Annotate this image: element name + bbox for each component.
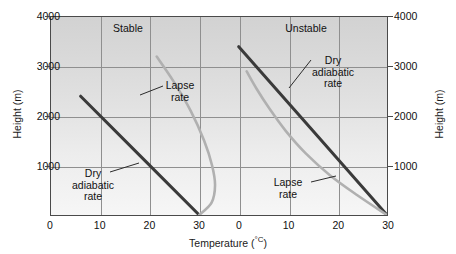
y-axis-title-right: Height (m) — [433, 84, 445, 144]
panel-title-stable: Stable — [113, 22, 143, 34]
label-stable-lapse-rate: Lapse rate — [166, 80, 195, 103]
x-tick-label-stable: 30 — [193, 220, 205, 231]
x-tick-label-stable: 20 — [144, 220, 156, 231]
curve-unstable-lapse-rate — [247, 71, 387, 215]
temperature-height-chart: 1000100020002000300030004000400001020300… — [0, 0, 456, 254]
x-axis-title: Temperature (°C) — [0, 235, 456, 249]
label-stable-lapse-line2: rate — [166, 92, 195, 104]
label-stable-dry-line1: Dry — [72, 168, 114, 180]
y-tick-mark-right — [388, 166, 393, 167]
y-tick-label-right: 1000 — [394, 161, 436, 172]
label-unstable-lapse-rate: Lapse rate — [274, 177, 303, 200]
x-tick-label-unstable: 10 — [283, 220, 295, 231]
label-unstable-lapse-line1: Lapse — [274, 177, 303, 189]
y-tick-label-right: 3000 — [394, 61, 436, 72]
label-stable-lapse-line1: Lapse — [166, 80, 195, 92]
y-tick-label-left: 4000 — [18, 11, 60, 22]
x-tick-label-unstable: 20 — [332, 220, 344, 231]
y-tick-label-right: 4000 — [394, 11, 436, 22]
y-tick-mark-right — [388, 116, 393, 117]
label-unstable-lapse-line2: rate — [274, 189, 303, 201]
x-tick-label-unstable: 30 — [382, 220, 394, 231]
x-tick-label-stable: 0 — [47, 220, 53, 231]
y-tick-label-left: 1000 — [18, 161, 60, 172]
y-tick-mark-left — [45, 116, 50, 117]
label-unstable-dry-adiabatic-rate: Dry adiabatic rate — [312, 55, 354, 90]
y-tick-label-left: 2000 — [18, 111, 60, 122]
label-stable-dry-line3: rate — [72, 191, 114, 203]
y-tick-mark-left — [45, 66, 50, 67]
y-tick-mark-right — [388, 66, 393, 67]
y-tick-label-right: 2000 — [394, 111, 436, 122]
label-unstable-dry-line1: Dry — [312, 55, 354, 67]
label-stable-dry-adiabatic-rate: Dry adiabatic rate — [72, 168, 114, 203]
x-tick-label-stable: 10 — [94, 220, 106, 231]
y-tick-label-left: 3000 — [18, 61, 60, 72]
label-unstable-dry-line3: rate — [312, 78, 354, 90]
y-tick-mark-left — [45, 166, 50, 167]
panel-title-unstable: Unstable — [285, 22, 326, 34]
x-tick-label-unstable: 0 — [236, 220, 242, 231]
x-axis-title-close: ) — [263, 237, 267, 249]
y-tick-mark-left — [45, 16, 50, 17]
y-axis-title-left: Height (m) — [11, 84, 23, 144]
x-axis-title-text: Temperature ( — [189, 237, 254, 249]
y-tick-mark-right — [388, 16, 393, 17]
